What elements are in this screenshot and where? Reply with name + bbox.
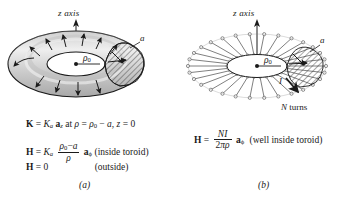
figure-toroid-magnetic-field: z axis [0, 0, 348, 204]
eqb-den-rho: ρ [225, 140, 230, 150]
eq1-equals: = [36, 119, 41, 129]
eq1-equals2: = [81, 119, 86, 129]
eq1-at: at [65, 119, 72, 129]
n-turns-label-b: N turns [281, 102, 307, 112]
rho0-label-b: ρ0 [264, 55, 272, 65]
eq1-z: z [117, 119, 121, 129]
n-turns-text: turns [287, 102, 307, 112]
eqb-denominator: 2πρ [214, 140, 232, 151]
eq2-numerator: ρ0−a [58, 141, 80, 153]
eq1-rho: ρ [74, 119, 79, 129]
eq3-lhs: H [26, 162, 33, 172]
eq2-fraction: ρ0−a ρ [58, 141, 80, 164]
eq2-lhs: H [26, 147, 33, 157]
eq1-minus: − [99, 119, 104, 129]
eq3-equals: = [36, 162, 41, 172]
eq2-equals: = [36, 147, 41, 157]
equation-h-inside-a: H = Ka ρ0−a ρ aϕ (inside toroid) [26, 141, 149, 164]
rho0-label-a: ρ0 [83, 53, 91, 63]
eq2-unit-subscript: ϕ [89, 150, 92, 157]
radius-a-label-a: a [140, 33, 145, 43]
eqb-fraction: NI 2πρ [214, 129, 232, 152]
radius-a-label-b: a [320, 35, 325, 45]
equation-surface-current: K = Ka az at ρ = ρ0 − a, z = 0 [26, 120, 135, 130]
eq3-note: (outside) [95, 162, 129, 172]
eq1-equals3: = [123, 119, 128, 129]
eqb-num-i: I [224, 129, 227, 139]
caption-b: (b) [258, 180, 269, 190]
eq1-comma: , [112, 119, 114, 129]
eq2-denominator: ρ [58, 153, 80, 164]
eqb-equals: = [204, 135, 209, 145]
eq1-unit-subscript: z [60, 122, 63, 129]
panel-a-ideal-toroid: z axis [0, 0, 174, 204]
panel-b-wound-toroid: z axis [174, 0, 348, 204]
equation-h-outside-a: H = 0 (outside) [26, 163, 128, 173]
eq1-k-subscript: a [50, 122, 53, 129]
eq3-value: 0 [44, 162, 49, 172]
eq2-num-a: a [73, 141, 78, 151]
rho0-subscript-b: 0 [269, 58, 272, 65]
current-label-b: I [279, 76, 282, 86]
eq1-lhs: K [26, 119, 33, 129]
eq2-k-subscript: a [50, 150, 53, 157]
toroid-drawing-b [174, 0, 348, 112]
eq1-rho2-subscript: 0 [94, 122, 97, 129]
eq2-note: (inside toroid) [94, 147, 148, 157]
equation-h-inside-b: H = NI 2πρ aϕ (well inside toroid) [194, 129, 322, 152]
caption-a: (a) [79, 180, 90, 190]
eqb-lhs: H [194, 135, 201, 145]
eqb-note: (well inside toroid) [250, 135, 323, 145]
eq1-zero: 0 [130, 119, 135, 129]
eqb-numerator: NI [214, 129, 232, 141]
rho0-subscript-a: 0 [88, 56, 91, 63]
eqb-unit-subscript: ϕ [241, 138, 244, 145]
